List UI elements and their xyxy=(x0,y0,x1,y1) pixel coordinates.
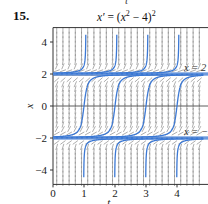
y-tick-label: 2 xyxy=(42,68,48,80)
y-axis-label: x xyxy=(23,103,35,109)
slope-field xyxy=(54,27,203,186)
equilibrium-label: x = −2 xyxy=(183,126,208,137)
y-tick-label: −2 xyxy=(35,132,47,144)
phase-plot: 420−2−401234xtx = 2x = −2 xyxy=(0,0,208,204)
y-tick-label: −4 xyxy=(35,164,47,176)
x-tick-label: 3 xyxy=(143,187,149,199)
y-tick-label: 4 xyxy=(42,36,48,48)
x-tick-label: 1 xyxy=(81,187,87,199)
equilibrium-label: x = 2 xyxy=(183,62,207,73)
x-axis-label: t xyxy=(107,196,111,204)
x-tick-label: 4 xyxy=(174,187,180,199)
plot-frame xyxy=(50,28,208,188)
x-tick-label: 2 xyxy=(112,187,118,199)
y-tick-label: 0 xyxy=(42,100,48,112)
x-tick-label: 0 xyxy=(50,187,56,199)
